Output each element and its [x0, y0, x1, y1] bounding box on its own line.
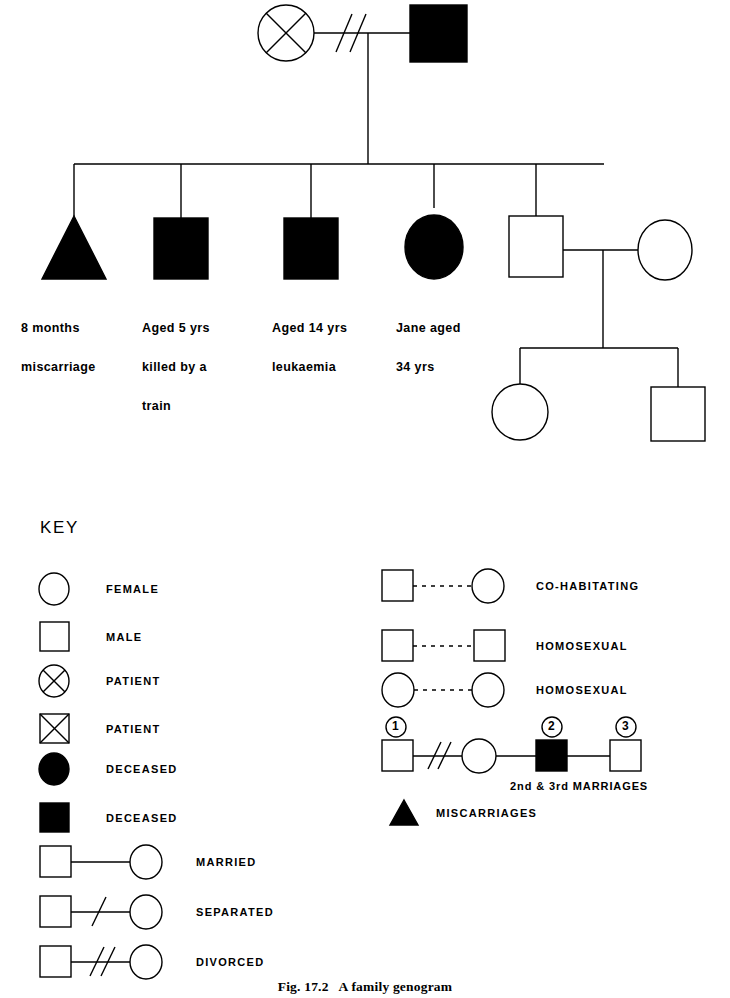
key-cohabitating-symbol [382, 569, 504, 603]
key-miscarriages-triangle [390, 800, 418, 825]
gen2-label-2: Aged 5 yrs killed by a train [142, 296, 210, 439]
gen3-granddaughter [492, 384, 548, 440]
key-separated-symbol [40, 895, 162, 929]
key-marriages-row [382, 717, 641, 773]
key-female-symbol [39, 573, 69, 605]
genogram-figure: 8 months miscarriage Aged 5 yrs killed b… [0, 0, 730, 998]
key-label-male: MALE [106, 631, 142, 644]
gen2-miscarriage-triangle [42, 216, 106, 279]
key-homosexual-male-symbol [382, 630, 505, 661]
gen1-mother-patient-symbol [258, 5, 314, 61]
key-married-symbol [40, 845, 162, 879]
genogram-drawing [0, 0, 730, 998]
key-label-homosexual-female: HOMOSEXUAL [536, 684, 628, 697]
gen1-father-deceased-symbol [410, 5, 467, 62]
key-label-miscarriages: MISCARRIAGES [436, 807, 537, 820]
key-divorced-symbol [40, 945, 162, 979]
key-label-patient-circle: PATIENT [106, 675, 161, 688]
key-label-female: FEMALE [106, 583, 159, 596]
key-label-cohabitating: CO-HABITATING [536, 580, 639, 593]
gen2-son-living [509, 216, 563, 277]
key-label-marriages-note: 2nd & 3rd MARRIAGES [510, 780, 648, 793]
key-label-separated: SEPARATED [196, 906, 274, 919]
gen2-spouse-female [638, 220, 692, 280]
gen2-label-4: Jane aged 34 yrs [396, 296, 461, 400]
marriage-number-3: 3 [622, 720, 629, 733]
marriage-number-1: 1 [392, 720, 399, 733]
key-deceased-circle-symbol [39, 753, 69, 785]
gen2-son-deceased-2 [284, 218, 338, 279]
gen2-jane-deceased [405, 215, 463, 279]
key-title: KEY [40, 521, 79, 534]
key-patient-circle-symbol [39, 665, 69, 697]
key-homosexual-female-symbol [382, 673, 504, 707]
key-label-married: MARRIED [196, 856, 256, 869]
key-male-symbol [40, 622, 69, 651]
marriage-number-2: 2 [548, 720, 555, 733]
key-deceased-square-symbol [40, 803, 69, 832]
key-label-patient-square: PATIENT [106, 723, 161, 736]
key-label-deceased-circle: DECEASED [106, 763, 178, 776]
gen2-label-3: Aged 14 yrs leukaemia [272, 296, 347, 400]
figure-caption: Fig. 17.2 A family genogram [0, 980, 730, 993]
gen2-son-deceased-1 [154, 218, 208, 279]
key-label-divorced: DIVORCED [196, 956, 264, 969]
key-label-homosexual-male: HOMOSEXUAL [536, 640, 628, 653]
gen3-grandson [651, 387, 705, 441]
gen2-label-1: 8 months miscarriage [21, 296, 96, 400]
key-label-deceased-square: DECEASED [106, 812, 178, 825]
key-patient-square-symbol [40, 714, 69, 743]
